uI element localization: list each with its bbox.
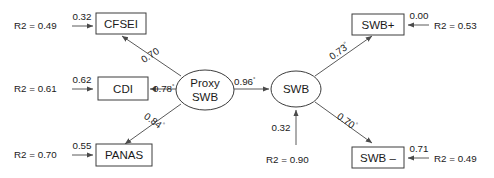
panas-r2-label: R2 = 0.70 [14,149,57,160]
cdi-r2-label: R2 = 0.61 [14,83,57,94]
proxy-swb-ellipse [176,70,234,110]
swb-residual-coef: 0.32 [271,122,290,133]
path-diagram-svg: CFSEI CDI PANAS SWB+ SWB – Proxy SWB SWB [0,0,494,178]
swb-to-minus-value: 0.70 [335,110,357,130]
swb-plus-r2-label: R2 = 0.53 [434,20,477,31]
panas-label: PANAS [105,149,143,161]
svg-text:0.70°: 0.70° [335,110,359,132]
svg-text:0.78°: 0.78° [153,83,175,94]
node-cfsei: CFSEI [96,13,146,34]
label-swb-to-minus: 0.70° [335,110,359,132]
node-cdi: CDI [98,77,148,100]
panas-residual-coef: 0.55 [72,140,92,151]
node-proxy-swb: Proxy SWB [176,70,234,110]
path-diagram-canvas: CFSEI CDI PANAS SWB+ SWB – Proxy SWB SWB [0,0,494,178]
svg-text:0.70: 0.70 [139,45,161,65]
label-proxy-to-cfsei: 0.70 [139,45,161,65]
swb-r2-label: R2 = 0.90 [266,154,309,165]
cdi-residual-coef: 0.62 [72,74,91,85]
proxy-swb-label-line1: Proxy [190,77,220,89]
cfsei-label: CFSEI [104,18,138,30]
proxy-to-cdi-mark: ° [172,83,175,89]
swb-label: SWB [283,83,310,95]
swb-minus-residual-coef: 0.71 [409,143,428,154]
swb-plus-label: SWB+ [362,19,395,31]
proxy-to-swb-mark: ° [253,76,256,82]
proxy-to-cfsei-value: 0.70 [139,45,161,65]
cdi-label: CDI [113,83,133,95]
proxy-to-cdi-value: 0.78 [153,83,173,94]
proxy-swb-label-line2: SWB [192,91,219,103]
node-swb: SWB [271,71,321,107]
proxy-to-swb-value: 0.96 [234,76,254,87]
cfsei-r2-label: R2 = 0.49 [14,20,57,31]
node-swb-minus: SWB – [352,147,404,168]
proxy-to-panas-value: 0.84 [142,110,164,130]
swb-plus-residual-coef: 0.00 [409,10,429,21]
svg-text:0.96°: 0.96° [234,76,256,87]
swb-minus-label: SWB – [360,152,396,164]
label-proxy-to-swb: 0.96° [234,76,256,87]
node-panas: PANAS [96,144,152,166]
node-swb-plus: SWB+ [352,14,404,35]
swb-minus-r2-label: R2 = 0.49 [434,153,477,164]
label-proxy-to-cdi: 0.78° [153,83,175,94]
cfsei-residual-coef: 0.32 [72,11,91,22]
